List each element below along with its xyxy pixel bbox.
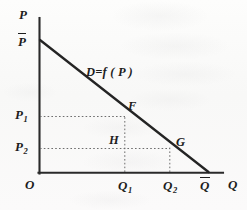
p-bar-label: P: [18, 34, 26, 48]
q1-subscript: 1: [128, 185, 132, 195]
demand-curve-line: [40, 40, 209, 172]
q2-label: Q2: [163, 179, 177, 192]
p-bar-text: P: [18, 34, 26, 48]
q-bar-text: Q: [200, 178, 209, 192]
p2-text: P: [15, 139, 23, 154]
p1-subscript: 1: [23, 114, 27, 124]
p2-subscript: 2: [23, 146, 27, 156]
q2-subscript: 2: [173, 185, 177, 195]
demand-curve-label: D=f ( P ): [86, 65, 133, 80]
point-label-f: F: [128, 100, 136, 113]
y-axis-label: P: [19, 8, 27, 21]
q1-text: Q: [118, 178, 127, 193]
x-axis-label: Q: [228, 178, 237, 191]
q2-text: Q: [163, 178, 172, 193]
q-bar-label: Q: [200, 178, 209, 192]
point-label-g: G: [176, 136, 185, 149]
origin-label: O: [25, 178, 34, 191]
demand-curve-figure: P Q O P P1 P2 Q1 Q2 Q D=f ( P ) F H G: [0, 0, 247, 210]
p1-text: P: [15, 107, 23, 122]
q1-label: Q1: [118, 179, 132, 192]
p1-label: P1: [15, 108, 27, 121]
p2-label: P2: [15, 140, 27, 153]
point-label-h: H: [109, 134, 119, 147]
